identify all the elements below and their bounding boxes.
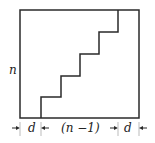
dimension-row: d (n −1) d xyxy=(12,121,147,136)
left-margin-label: d xyxy=(28,121,36,135)
staircase-path xyxy=(41,10,118,118)
staircase-diagram: n d (n −1) d xyxy=(0,0,155,143)
right-inner-arrow-icon xyxy=(114,126,118,130)
right-margin-label: d xyxy=(124,121,132,135)
left-arrow-icon xyxy=(16,126,20,130)
height-label: n xyxy=(9,63,17,77)
middle-span-label: (n −1) xyxy=(61,121,100,135)
